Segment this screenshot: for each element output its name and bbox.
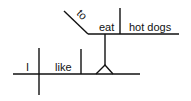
infinitive-marker-word: to: [75, 7, 90, 22]
subject-word: I: [26, 61, 29, 73]
pedestal-triangle: [96, 65, 113, 74]
sentence-diagram: I like eat hot dogs to: [0, 0, 191, 101]
infinitive-verb-word: eat: [99, 21, 114, 33]
verb-word: like: [55, 61, 72, 73]
infinitive-object-word: hot dogs: [129, 21, 172, 33]
